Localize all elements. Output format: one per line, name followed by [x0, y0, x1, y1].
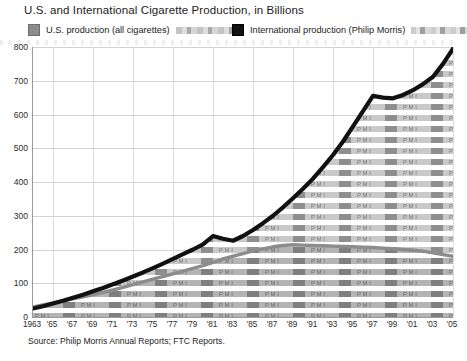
source-note: Source: Philip Morris Annual Reports; FT…	[28, 336, 225, 346]
x-tick-05: '05	[437, 320, 467, 329]
y-tick-800: 800	[2, 42, 28, 52]
y-tick-700: 700	[2, 76, 28, 86]
legend-swatch-us-icon	[28, 24, 40, 36]
y-tick-300: 300	[2, 211, 28, 221]
y-tick-600: 600	[2, 110, 28, 120]
gridline-x-05	[453, 47, 454, 317]
y-tick-400: 400	[2, 177, 28, 187]
legend-label-us: U.S. production (all cigarettes)	[46, 25, 170, 35]
legend-swatch-international-icon	[232, 24, 244, 36]
page-bleed-glyphs	[28, 352, 31, 361]
scan-noise-band	[0, 40, 456, 45]
us-production-area	[33, 245, 453, 317]
legend-smudge-us-icon	[176, 27, 238, 34]
legend-label-international: International production (Philip Morris)	[250, 25, 405, 35]
legend-smudge-international-icon	[411, 27, 467, 34]
chart-legend: U.S. production (all cigarettes) Interna…	[28, 22, 452, 38]
legend-item-us-production[interactable]: U.S. production (all cigarettes)	[28, 22, 238, 38]
y-tick-500: 500	[2, 143, 28, 153]
plot-area: P M IP M I	[32, 47, 453, 318]
legend-item-international-production[interactable]: International production (Philip Morris)	[232, 22, 467, 38]
y-tick-100: 100	[2, 278, 28, 288]
series-plot-svg: P M IP M I	[33, 47, 453, 317]
page-bleed-text	[0, 352, 456, 361]
y-tick-200: 200	[2, 245, 28, 255]
chart-title: U.S. and International Cigarette Product…	[24, 4, 304, 16]
